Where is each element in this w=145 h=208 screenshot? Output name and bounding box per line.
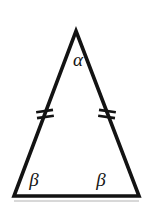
base-left-angle-label: β [28, 169, 39, 190]
apex-angle-label: α [73, 49, 84, 70]
geometry-figure-canvas: α β β [0, 0, 145, 208]
baseline-shadow [14, 200, 139, 202]
triangle-diagram-svg: α β β [0, 0, 145, 208]
base-right-angle-label: β [95, 169, 106, 190]
